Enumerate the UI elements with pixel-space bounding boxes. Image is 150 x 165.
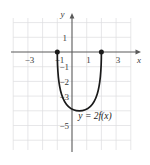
y-tick-label-neg2: −2: [59, 77, 69, 87]
marker-root-right: [99, 50, 104, 55]
x-axis-label: x: [136, 55, 141, 65]
y-tick-label-neg1: −1: [59, 62, 69, 72]
x-tick-label-pos1: 1: [86, 55, 91, 65]
y-axis-label: y: [60, 9, 65, 19]
y-tick-label-neg5: −5: [59, 121, 69, 131]
x-tick-label-neg3: −3: [25, 55, 35, 65]
x-tick-label-pos3: 3: [116, 55, 121, 65]
y-tick-label-pos1: 1: [63, 33, 68, 43]
coordinate-plane-plot: y x −3 −1 1 3 1 −1 −2 −3 −5 y = 2f(x): [0, 0, 150, 165]
graph-figure: y x −3 −1 1 3 1 −1 −2 −3 −5 y = 2f(x): [0, 0, 150, 165]
curve-equation-label: y = 2f(x): [77, 111, 111, 122]
marker-root-left: [55, 50, 60, 55]
